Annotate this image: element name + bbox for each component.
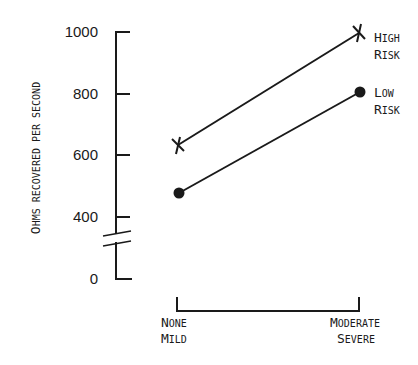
legend-high-risk-line1: HIGH [374, 30, 400, 45]
series-low-risk [175, 88, 365, 198]
axis-break-icon [103, 231, 131, 246]
y-tick-labels: 1000 800 600 400 0 [65, 23, 98, 287]
series-high-risk [172, 24, 365, 154]
x-marker-icon [172, 137, 184, 154]
legend-high-risk-line2: RISK [374, 47, 400, 62]
legend-low-risk-line1: LOW [374, 85, 395, 100]
legend-low-risk-line2: RISK [374, 102, 400, 117]
dot-marker-icon [356, 88, 365, 97]
dot-marker-icon [175, 189, 184, 198]
y-tick-600: 600 [73, 146, 98, 163]
y-axis-title: OHMS RECOVERED PER SECOND [28, 82, 43, 234]
y-tick-1000: 1000 [65, 23, 98, 40]
y-tick-0: 0 [90, 270, 98, 287]
x-label-moderate-severe-line2: SEVERE [337, 331, 375, 346]
x-label-moderate-severe-line1: MODERATE [330, 315, 380, 330]
x-label-none-mild-line2: MILD [161, 331, 187, 346]
x-axis [177, 297, 359, 311]
x-label-none-mild-line1: NONE [161, 315, 187, 330]
y-tick-800: 800 [73, 85, 98, 102]
x-marker-icon [353, 24, 365, 42]
line-chart: OHMS RECOVERED PER SECOND 1000 800 600 4… [0, 0, 418, 365]
y-tick-400: 400 [73, 208, 98, 225]
